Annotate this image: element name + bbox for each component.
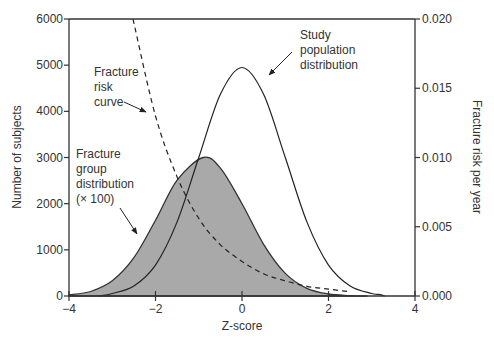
y-right-tick-label: 0.015 <box>422 81 452 95</box>
annotation-population-text: Study population distribution <box>300 28 359 72</box>
x-tick-label: −4 <box>62 302 76 316</box>
arrow-icon <box>120 208 137 234</box>
y-tick-label: 6000 <box>36 12 63 26</box>
annotation-study-population: Study population distribution <box>269 28 359 75</box>
y-right-tick-label: 0.000 <box>422 289 452 303</box>
y-axis-label-left: Number of subjects <box>10 105 24 208</box>
y-tick-label: 1000 <box>36 243 63 257</box>
y-tick-label: 4000 <box>36 104 63 118</box>
x-tick-label: 2 <box>325 302 332 316</box>
chart: −4−2024 0100020003000400050006000 0.0000… <box>0 0 494 345</box>
x-tick-label: 4 <box>412 302 419 316</box>
annotation-group-text: Fracture group distribution (× 100) <box>76 147 137 206</box>
arrow-icon <box>124 102 146 112</box>
x-tick-label: 0 <box>239 302 246 316</box>
y-right-tick-label: 0.020 <box>422 12 452 26</box>
annotation-fracture-risk: Fracture risk curve <box>94 65 146 112</box>
y-tick-label: 0 <box>56 289 63 303</box>
x-axis-label: Z-score <box>222 319 263 333</box>
x-tick-label: −2 <box>149 302 163 316</box>
y-axis-ticks-right: 0.0000.0050.0100.0150.020 <box>415 12 452 303</box>
y-tick-label: 5000 <box>36 58 63 72</box>
y-axis-ticks-left: 0100020003000400050006000 <box>36 12 69 303</box>
arrow-icon <box>269 52 292 75</box>
annotation-risk-text: Fracture risk curve <box>94 65 142 109</box>
y-axis-label-right: Fracture risk per year <box>470 100 484 214</box>
y-tick-label: 2000 <box>36 197 63 211</box>
y-tick-label: 3000 <box>36 151 63 165</box>
y-right-tick-label: 0.010 <box>422 151 452 165</box>
y-right-tick-label: 0.005 <box>422 220 452 234</box>
annotation-fracture-group: Fracture group distribution (× 100) <box>76 147 137 234</box>
